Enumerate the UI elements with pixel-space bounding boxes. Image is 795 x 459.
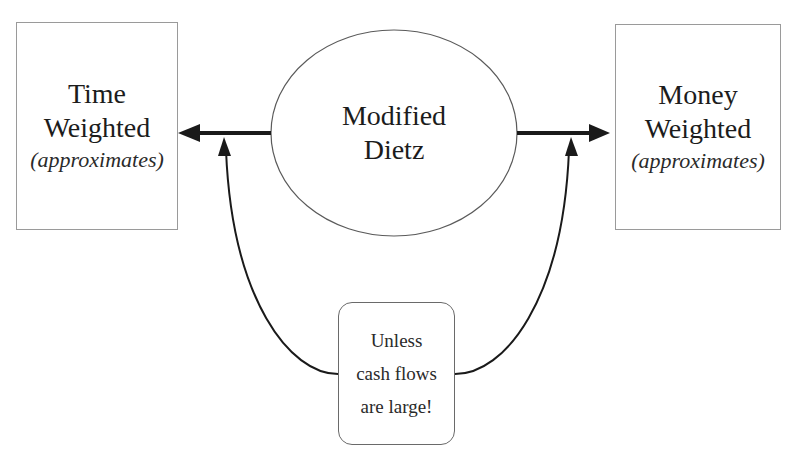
- money-weighted-note: (approximates): [631, 146, 765, 176]
- arrow-to-money-weighted: [517, 124, 610, 142]
- diagram-canvas: Time Weighted (approximates) Modified Di…: [0, 0, 795, 459]
- money-weighted-label-line2: Weighted: [645, 112, 752, 146]
- time-weighted-note: (approximates): [30, 145, 164, 175]
- time-weighted-label-line2: Weighted: [44, 111, 151, 145]
- caveat-line3: are large!: [361, 390, 433, 423]
- time-weighted-box: Time Weighted (approximates): [16, 22, 178, 230]
- modified-dietz-node: Modified Dietz: [271, 30, 517, 236]
- caveat-line1: Unless: [371, 324, 423, 357]
- caveat-line2: cash flows: [356, 357, 437, 390]
- modified-dietz-label-line1: Modified: [342, 99, 446, 133]
- money-weighted-box: Money Weighted (approximates): [615, 24, 781, 230]
- time-weighted-label-line1: Time: [68, 77, 126, 111]
- caveat-box: Unless cash flows are large!: [338, 302, 455, 445]
- money-weighted-label-line1: Money: [658, 78, 737, 112]
- modified-dietz-label-line2: Dietz: [364, 133, 425, 167]
